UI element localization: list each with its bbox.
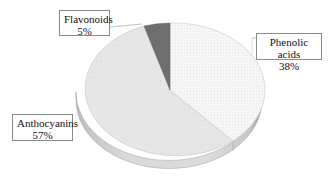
label-phenolic-name: Phenolic acids	[261, 36, 317, 60]
label-anthocyanins-name: Anthocyanins	[17, 117, 68, 129]
label-anthocyanins: Anthocyanins 57%	[12, 114, 73, 141]
label-phenolic-pct: 38%	[261, 60, 317, 72]
pie-chart	[0, 0, 331, 185]
label-phenolic-acids: Phenolic acids 38%	[256, 33, 322, 60]
label-flavonoids-pct: 5%	[64, 25, 105, 37]
label-anthocyanins-pct: 57%	[17, 129, 68, 141]
label-flavonoids-name: Flavonoids	[64, 13, 105, 25]
leader-flavonoids	[110, 24, 142, 27]
label-flavonoids: Flavonoids 5%	[59, 10, 110, 36]
